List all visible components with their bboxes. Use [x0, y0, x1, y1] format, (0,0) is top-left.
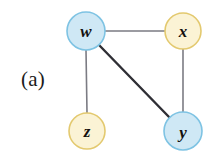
node-w-label: w: [80, 22, 92, 41]
node-y[interactable]: y: [164, 112, 202, 150]
node-z[interactable]: z: [69, 113, 105, 149]
node-w[interactable]: w: [67, 12, 105, 50]
node-z-label: z: [83, 122, 91, 141]
node-x[interactable]: x: [165, 13, 201, 49]
node-x-label: x: [178, 22, 188, 41]
panel-label: (a): [8, 66, 58, 92]
figure-panel: w x z y (a): [0, 0, 224, 157]
node-y-label: y: [177, 123, 187, 142]
edge-w-z: [86, 50, 87, 113]
edge-w-y: [99, 45, 170, 118]
